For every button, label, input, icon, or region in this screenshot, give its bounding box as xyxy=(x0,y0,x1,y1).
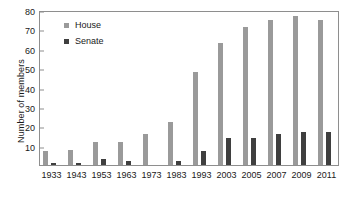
bar-house xyxy=(118,142,123,165)
y-axis-tick-label: 50 xyxy=(25,65,40,75)
bar-house xyxy=(168,122,173,165)
bar-group xyxy=(315,12,340,165)
bar-group xyxy=(65,12,90,165)
bar-senate xyxy=(201,151,206,165)
bar-house xyxy=(193,72,198,165)
bars-layer xyxy=(40,12,338,165)
bar-senate xyxy=(226,138,231,165)
bar-senate xyxy=(176,161,181,165)
bar-senate xyxy=(101,159,106,165)
bar-chart-figure: Number of members House Senate 807060504… xyxy=(0,0,347,204)
y-axis-tick-label: 10 xyxy=(25,143,40,153)
y-axis-tick-label: 70 xyxy=(25,26,40,36)
bar-group xyxy=(240,12,265,165)
bar-senate xyxy=(126,161,131,165)
bar-senate xyxy=(76,163,81,165)
bar-senate xyxy=(276,134,281,165)
bar-group xyxy=(90,12,115,165)
bar-house xyxy=(318,20,323,165)
bar-house xyxy=(268,20,273,165)
bar-house xyxy=(243,27,248,165)
bar-group xyxy=(40,12,65,165)
y-axis-tick-label: 20 xyxy=(25,123,40,133)
bar-house xyxy=(218,43,223,165)
y-axis-tick-label: 30 xyxy=(25,104,40,114)
bar-house xyxy=(93,142,98,165)
y-axis-tick-label: 80 xyxy=(25,7,40,17)
plot-area: House Senate 8070605040302010 xyxy=(39,11,339,166)
y-axis-tick-label: 60 xyxy=(25,46,40,56)
bar-group xyxy=(265,12,290,165)
bar-group xyxy=(190,12,215,165)
y-axis-tick-label: 40 xyxy=(25,85,40,95)
bar-house xyxy=(143,134,148,165)
bar-group xyxy=(140,12,165,165)
bar-senate xyxy=(301,132,306,165)
x-axis-tick-label: 2011 xyxy=(310,170,344,180)
bar-group xyxy=(215,12,240,165)
bar-house xyxy=(293,16,298,165)
bar-group xyxy=(290,12,315,165)
bar-group xyxy=(115,12,140,165)
bar-senate xyxy=(51,163,56,165)
bar-senate xyxy=(326,132,331,165)
bar-house xyxy=(68,150,73,166)
bar-house xyxy=(43,151,48,165)
bar-group xyxy=(165,12,190,165)
bar-senate xyxy=(251,138,256,165)
